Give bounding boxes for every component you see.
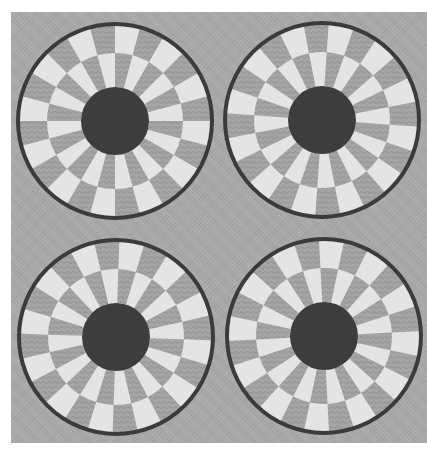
wheel-top-left	[18, 24, 212, 218]
wheel-top-right	[225, 23, 419, 217]
center-disc	[288, 86, 356, 154]
wheel-bottom-left	[19, 240, 213, 434]
wheel-bottom-right	[227, 239, 421, 433]
center-disc	[290, 302, 358, 370]
center-disc	[82, 303, 150, 371]
center-disc	[81, 87, 149, 155]
checkerboard-wheels	[0, 0, 427, 453]
figure-canvas	[0, 0, 427, 453]
